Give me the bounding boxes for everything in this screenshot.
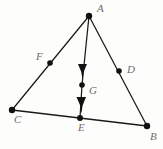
- geometry-figure: A B C D E F G: [0, 0, 163, 149]
- point-label-C: C: [14, 114, 21, 125]
- arrow-lower-icon: [77, 97, 87, 114]
- point-dot-G: [79, 82, 85, 88]
- point-dot-F: [47, 60, 53, 66]
- point-dot-A: [86, 13, 92, 19]
- point-label-B: B: [150, 131, 157, 142]
- point-dot-D: [116, 68, 122, 74]
- point-label-A: A: [97, 3, 104, 14]
- point-label-G: G: [89, 85, 97, 96]
- point-label-E: E: [78, 122, 85, 133]
- point-label-F: F: [36, 51, 43, 62]
- arrow-upper-icon: [78, 64, 87, 80]
- point-label-D: D: [127, 64, 135, 75]
- point-dot-B: [144, 123, 150, 129]
